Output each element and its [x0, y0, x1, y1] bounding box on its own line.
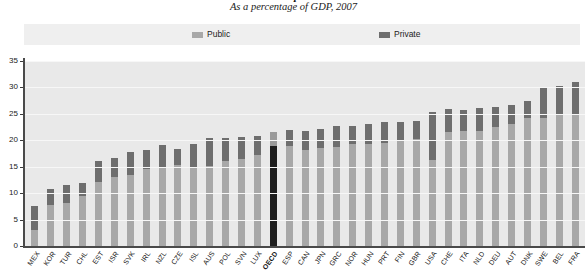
bar-column: [234, 61, 250, 246]
bar-segment-public: [127, 175, 134, 246]
bar-fra[interactable]: [572, 82, 579, 246]
x-axis-label-hun: HUN: [360, 250, 375, 267]
bar-kor[interactable]: [47, 189, 54, 246]
bar-segment-private: [127, 152, 134, 174]
legend-item-public[interactable]: Public: [192, 28, 230, 41]
bar-column: [281, 61, 297, 246]
x-axis-label-cell: JPN: [313, 249, 329, 272]
y-axis-tick-label: 20: [9, 136, 18, 144]
x-axis-label-cell: AUS: [202, 249, 218, 272]
bar-deu[interactable]: [492, 107, 499, 246]
x-axis-label-cell: AUT: [504, 249, 520, 272]
bar-lux[interactable]: [254, 136, 261, 246]
x-axis-label-tur: TUR: [58, 250, 73, 267]
bar-irl[interactable]: [143, 150, 150, 246]
bar-column: [440, 61, 456, 246]
x-axis-label-cell: NOR: [345, 249, 361, 272]
x-axis-label-isr: ISR: [108, 250, 121, 264]
bar-pol[interactable]: [222, 138, 229, 246]
x-axis-label-cell: SWE: [536, 249, 552, 272]
bar-isl[interactable]: [190, 144, 197, 246]
bar-nzl[interactable]: [159, 145, 166, 246]
chart-subtitle: As a percentage of GDP, 2007: [0, 0, 587, 14]
bar-segment-private: [429, 112, 436, 160]
bar-column: [551, 61, 567, 246]
x-axis-label-chl: CHL: [74, 250, 89, 266]
bar-aus[interactable]: [206, 138, 213, 246]
bar-segment-public: [79, 196, 86, 246]
bar-segment-public: [429, 160, 436, 246]
bar-segment-public: [238, 159, 245, 246]
x-axis-label-gbr: GBR: [407, 250, 422, 267]
bar-chl[interactable]: [79, 183, 86, 246]
bar-segment-private: [206, 138, 213, 166]
bar-est[interactable]: [95, 161, 102, 246]
bar-grc[interactable]: [333, 126, 340, 247]
bar-svn[interactable]: [238, 137, 245, 246]
bar-segment-public: [365, 144, 372, 246]
x-axis-label-prt: PRT: [376, 250, 391, 266]
bar-segment-public: [492, 127, 499, 246]
bar-segment-private: [270, 132, 277, 146]
bar-esp[interactable]: [286, 130, 293, 246]
bar-segment-private: [492, 107, 499, 127]
x-axis-label-cell: ISR: [106, 249, 122, 272]
bar-segment-public: [333, 147, 340, 246]
bar-segment-public: [572, 114, 579, 246]
x-axis-label-cell: FRA: [567, 249, 583, 272]
x-axis-line: [23, 246, 585, 248]
legend-label-private: Private: [394, 28, 420, 41]
bar-segment-public: [286, 146, 293, 246]
bar-segment-public: [111, 177, 118, 246]
y-axis-tick-label: 30: [9, 83, 18, 91]
bar-column: [424, 61, 440, 246]
x-axis-label-cell: NLD: [472, 249, 488, 272]
bar-hun[interactable]: [365, 124, 372, 246]
bar-can[interactable]: [302, 131, 309, 246]
bar-nor[interactable]: [349, 126, 356, 247]
x-axis-label-cell: TUR: [59, 249, 75, 272]
bar-tur[interactable]: [63, 185, 70, 246]
bar-segment-private: [397, 122, 404, 140]
bar-jpn[interactable]: [317, 129, 324, 246]
x-axis-label-cell: GBR: [408, 249, 424, 272]
x-axis-label-cell: GRC: [329, 249, 345, 272]
bar-column: [456, 61, 472, 246]
bar-segment-public: [556, 115, 563, 246]
bar-cze[interactable]: [174, 149, 181, 246]
bar-column: [75, 61, 91, 246]
bar-column: [186, 61, 202, 246]
x-axis-label-cell: CZE: [170, 249, 186, 272]
bar-segment-public: [174, 165, 181, 246]
x-axis-label-cell: KOR: [43, 249, 59, 272]
bar-dnk[interactable]: [524, 101, 531, 246]
x-axis-label-nzl: NZL: [154, 250, 168, 266]
gridline: [25, 167, 585, 168]
x-axis-label-fin: FIN: [394, 250, 407, 264]
bar-che[interactable]: [445, 109, 452, 246]
x-axis-label-ita: ITA: [458, 250, 471, 263]
bar-segment-public: [381, 143, 388, 246]
bar-isr[interactable]: [111, 158, 118, 246]
bar-ita[interactable]: [460, 110, 467, 246]
x-axis-label-usa: USA: [424, 250, 439, 267]
x-axis-label-che: CHE: [439, 250, 454, 267]
x-axis-label-cell: PRT: [377, 249, 393, 272]
bar-oecd[interactable]: [270, 132, 277, 246]
bar-mex[interactable]: [31, 206, 38, 246]
x-axis-label-est: EST: [91, 250, 106, 266]
bar-segment-public: [159, 167, 166, 246]
bar-usa[interactable]: [429, 112, 436, 246]
bar-column: [138, 61, 154, 246]
gridline: [25, 140, 585, 141]
bar-aut[interactable]: [508, 105, 515, 246]
x-axis-label-cell: EST: [91, 249, 107, 272]
gridline: [25, 220, 585, 221]
x-axis-label-cell: OECD: [265, 249, 281, 272]
x-axis-labels: MEXKORTURCHLESTISRSVKIRLNZLCZEISLAUSPOLS…: [25, 249, 585, 272]
x-axis-label-kor: KOR: [42, 250, 57, 267]
legend-item-private[interactable]: Private: [379, 28, 420, 41]
x-axis-label-nld: NLD: [472, 250, 487, 266]
y-axis-tick-label: 5: [14, 216, 18, 224]
bar-nld[interactable]: [476, 108, 483, 246]
